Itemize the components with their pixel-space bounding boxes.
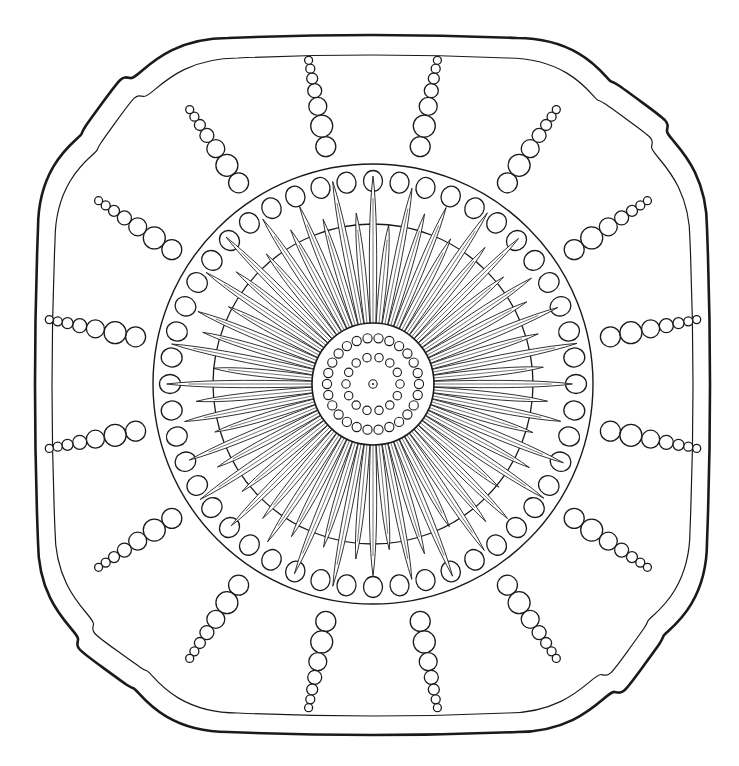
ray-bead [684,317,693,326]
band-bead [563,400,586,422]
ray-bead [413,115,435,137]
rosette-inner-bead [342,380,350,388]
rosette-inner-bead [375,354,383,362]
ray-bead [309,653,327,671]
rosette-outer-bead [409,358,418,367]
central-rosette [312,323,434,445]
rosette-outer-bead [385,336,394,345]
ray-bead [126,421,146,441]
ray-bead [53,317,62,326]
band-bead [235,209,263,237]
ray-bead [306,64,315,73]
band-bead [336,171,358,194]
ray-bead [126,327,146,347]
ray-bead [643,197,651,205]
rosette-outer-bead [342,417,351,426]
ray-bead [73,319,87,333]
rosette-outer-bead [363,334,372,343]
beaded-ray [95,508,182,571]
rosette-outer-bead [352,422,361,431]
band-bead [258,546,285,574]
dish-illustration: Decorative square dish with sunburst ros… [0,0,739,766]
ray-bead [552,106,560,114]
ray-bead [684,442,693,451]
rosette-outer-bead [324,368,333,377]
ray-bead [413,631,435,653]
ray-bead [307,684,318,695]
rosette-outer-bead [414,379,423,388]
band-bead [414,175,438,200]
band-bead [283,183,309,210]
ray-bead [642,430,660,448]
ray-bead [95,197,103,205]
rosette-inner-bead [352,359,360,367]
band-bead [160,347,183,369]
beaded-ray [600,421,700,452]
ray-bead [104,322,126,344]
ray-bead [306,695,315,704]
band-bead [414,567,438,592]
rosette-inner-bead [345,368,353,376]
ray-bead [308,84,322,98]
beaded-ray [564,197,651,260]
rosette-outer-bead [328,401,337,410]
rosette-outer-bead [385,422,394,431]
band-bead [235,531,263,559]
ray-bead [693,316,701,324]
rosette-inner-bead [352,401,360,409]
dish-artwork [0,0,739,766]
ray-bead [308,670,322,684]
beaded-ray [186,575,249,662]
ray-bead [73,435,87,449]
band-bead [563,347,586,369]
band-bead [309,567,333,592]
beaded-ray [410,56,441,156]
rosette-outer-bead [334,410,343,419]
ray-bead [419,653,437,671]
rosette-outer-bead [322,379,331,388]
ray-bead [104,424,126,446]
band-bead [483,531,511,559]
ray-bead [309,97,327,115]
ray-bead [620,322,642,344]
ray-bead [316,137,336,157]
band-bead [172,449,199,475]
ray-bead [659,319,673,333]
rosette-outer-bead [334,349,343,358]
band-bead [438,183,464,210]
rosette-inner-bead [386,401,394,409]
ray-bead [433,56,441,64]
beaded-ray [410,611,441,711]
ray-bead [620,424,642,446]
band-bead [172,294,199,320]
rosette-outer-bead [374,425,383,434]
rosette-inner-bead [393,368,401,376]
ray-bead [45,444,53,452]
ray-bead [433,704,441,712]
rosette-outer-bead [352,336,361,345]
ray-bead [45,316,53,324]
rosette-outer-bead [403,410,412,419]
beaded-ray [497,106,560,193]
ray-bead [424,670,438,684]
rosette-inner-bead [363,406,371,414]
ray-bead [53,442,62,451]
rosette-inner-bead [375,406,383,414]
band-bead [336,574,358,597]
beaded-ray [305,56,336,156]
band-bead [160,400,183,422]
beaded-ray [95,197,182,260]
beaded-ray [186,106,249,193]
rosette-outer-bead [395,342,404,351]
rosette-outer-bead [413,390,422,399]
beaded-ray [600,316,700,347]
ray-bead [311,631,333,653]
beaded-ray [564,508,651,571]
ray-bead [86,320,104,338]
ray-bead [424,84,438,98]
rosette-inner-bead [393,392,401,400]
ray-bead [600,421,620,441]
rosette-outer-bead [395,417,404,426]
ray-bead [431,64,440,73]
ray-bead [643,563,651,571]
